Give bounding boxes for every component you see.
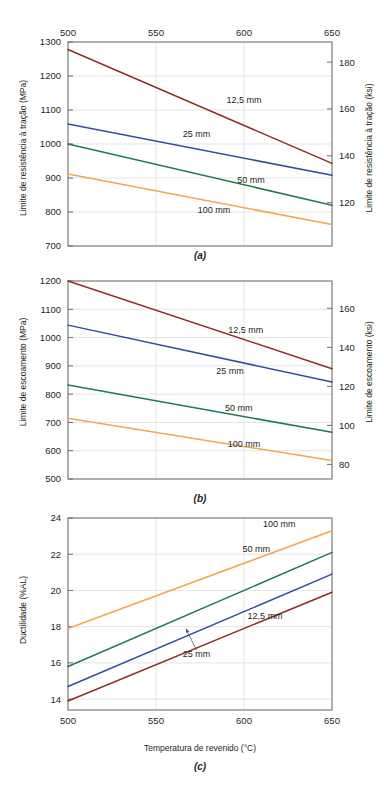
chart-a-y2label: Limite de resistência à tração (ksi): [364, 83, 374, 212]
chart-a-y2tick-label: 140: [339, 150, 355, 161]
chart-a-svg: 7008009001000110012001300120140160180500…: [0, 0, 384, 262]
chart-a-series-labels: 12,5 mm25 mm50 mm100 mm: [183, 95, 265, 215]
chart-a-y2tick-label: 120: [339, 197, 355, 208]
chart-b-caption: (b): [194, 493, 207, 504]
chart-c-xtick-label: 550: [148, 715, 164, 726]
chart-a-axes: 7008009001000110012001300120140160180500…: [40, 27, 355, 251]
chart-b-ytick-label: 1100: [41, 304, 61, 315]
chart-b-y2tick-label: 160: [339, 303, 355, 314]
chart-a-ytick-label: 1100: [41, 104, 61, 115]
chart-b-curves: [68, 281, 332, 461]
series-label-25-mm: 25 mm: [183, 649, 211, 659]
chart-c-xlabel: Temperatura de revenido (°C): [144, 743, 256, 753]
series-label-50-mm: 50 mm: [225, 403, 253, 413]
curve-50-mm: [68, 144, 332, 205]
chart-a-caption: (a): [194, 250, 207, 261]
curve-12-5-mm: [68, 49, 332, 163]
series-label-12-5-mm: 12,5 mm: [226, 95, 261, 105]
chart-b-ytick-label: 800: [45, 389, 61, 400]
chart-c-ytick-label: 24: [50, 512, 61, 523]
chart-a-ytick-label: 800: [45, 206, 61, 217]
chart-c-svg: 141618202224500550600650 100 mm50 mm25 m…: [0, 505, 384, 785]
chart-b-ytick-label: 900: [45, 360, 61, 371]
chart-b-gridlines: [68, 281, 332, 479]
series-label-100-mm: 100 mm: [228, 439, 261, 449]
chart-panel-c: 141618202224500550600650 100 mm50 mm25 m…: [0, 505, 384, 785]
chart-panel-b: 5006007008009001000110012008010012014016…: [0, 262, 384, 505]
chart-c-ytick-label: 22: [50, 549, 61, 560]
curve-25-mm: [68, 325, 332, 382]
chart-b-y2tick-label: 100: [339, 420, 355, 431]
chart-a-y2tick-label: 160: [339, 103, 355, 114]
curve-100-mm: [68, 174, 332, 225]
chart-a-xtick-label: 500: [60, 27, 76, 38]
chart-b-ytick-label: 700: [45, 417, 61, 428]
chart-c-series-labels: 100 mm50 mm25 mm12,5 mm: [183, 519, 296, 659]
chart-a-ytick-label: 900: [45, 172, 61, 183]
chart-c-caption: (c): [194, 761, 207, 772]
chart-c-ytick-label: 16: [50, 657, 61, 668]
chart-b-ytick-label: 600: [45, 445, 61, 456]
series-label-100-mm: 100 mm: [198, 205, 231, 215]
chart-a-xtick-label: 650: [324, 27, 340, 38]
chart-b-ylabel: Limite de escoamento (MPa): [18, 318, 28, 427]
curve-12-5-mm: [68, 592, 332, 701]
chart-c-xtick-label: 600: [236, 715, 252, 726]
chart-a-y2tick-label: 180: [339, 57, 355, 68]
chart-c-curves: [68, 531, 332, 701]
chart-c-ytick-label: 14: [50, 694, 61, 705]
curve-25-mm: [68, 574, 332, 686]
series-label-25-mm: 25 mm: [216, 366, 244, 376]
chart-a-ylabel: Limite de resistência à tração (MPa): [18, 80, 28, 216]
series-label-50-mm: 50 mm: [243, 544, 271, 554]
chart-panel-a: 7008009001000110012001300120140160180500…: [0, 0, 384, 262]
curve-100-mm: [68, 531, 332, 629]
series-label-12-5-mm: 12,5 mm: [248, 611, 283, 621]
chart-c-ylabel: Ductilidade (%AL): [18, 576, 28, 644]
chart-b-svg: 5006007008009001000110012008010012014016…: [0, 262, 384, 505]
chart-c-xtick-label: 650: [324, 715, 340, 726]
chart-b-axes: 5006007008009001000110012008010012014016…: [40, 275, 355, 484]
chart-b-y2tick-label: 140: [339, 342, 355, 353]
chart-b-y2tick-label: 120: [339, 381, 355, 392]
chart-a-ytick-label: 1300: [40, 36, 61, 47]
chart-b-ytick-label: 500: [45, 473, 61, 484]
chart-a-ytick-label: 1200: [40, 70, 61, 81]
chart-a-xtick-label: 550: [148, 27, 164, 38]
chart-a-ytick-label: 1000: [40, 138, 61, 149]
chart-c-xtick-label: 500: [60, 715, 76, 726]
chart-c-ytick-label: 20: [50, 585, 61, 596]
series-label-25-mm: 25 mm: [183, 129, 211, 139]
chart-b-y2label: Limite de escoamento (ksi): [364, 321, 374, 423]
chart-c-ytick-label: 18: [50, 621, 61, 632]
chart-b-y2tick-label: 80: [339, 459, 350, 470]
chart-a-gridlines: [68, 42, 332, 246]
series-label-50-mm: 50 mm: [237, 175, 265, 185]
series-label-12-5-mm: 12,5 mm: [228, 325, 263, 335]
figure-tempering-properties: 7008009001000110012001300120140160180500…: [0, 0, 384, 785]
chart-b-ytick-label: 1000: [40, 332, 61, 343]
chart-a-ytick-label: 700: [45, 240, 61, 251]
chart-a-xtick-label: 600: [236, 27, 252, 38]
chart-b-ytick-label: 1200: [40, 275, 61, 286]
series-label-100-mm: 100 mm: [263, 519, 296, 529]
curve-12-5-mm: [68, 281, 332, 369]
